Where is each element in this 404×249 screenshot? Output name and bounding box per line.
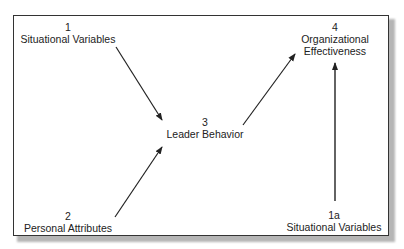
arrow-2-to-3 bbox=[115, 147, 162, 217]
node-leader-behavior: 3 Leader Behavior bbox=[160, 116, 250, 140]
node-label: Personal Attributes bbox=[24, 222, 112, 234]
arrow-1-to-3 bbox=[116, 47, 162, 120]
node-organizational-effectiveness: 4 Organizational Effectiveness bbox=[295, 21, 375, 57]
node-personal-attributes: 2 Personal Attributes bbox=[22, 210, 114, 234]
node-label: Situational Variables bbox=[21, 33, 116, 45]
node-label: Leader Behavior bbox=[166, 128, 243, 140]
node-label: Situational Variables bbox=[287, 221, 382, 233]
node-number: 1 bbox=[20, 21, 116, 33]
node-situational-variables-1a: 1a Situational Variables bbox=[284, 209, 384, 233]
node-label-line2: Effectiveness bbox=[295, 45, 375, 57]
node-number: 1a bbox=[284, 209, 384, 221]
node-number: 4 bbox=[295, 21, 375, 33]
node-label-line1: Organizational bbox=[295, 33, 375, 45]
arrow-3-to-4 bbox=[243, 54, 295, 125]
node-number: 3 bbox=[160, 116, 250, 128]
node-number: 2 bbox=[22, 210, 114, 222]
node-situational-variables: 1 Situational Variables bbox=[20, 21, 116, 45]
